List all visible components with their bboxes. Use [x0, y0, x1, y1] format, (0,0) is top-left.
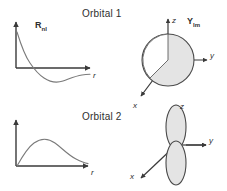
r-axis-label-orbital-2: r	[91, 169, 94, 177]
orbital-1-title: Orbital 1	[82, 9, 122, 19]
radial-curve-orbital-2	[17, 139, 88, 166]
r-axis-label-orbital-1: r	[93, 72, 96, 80]
p-orbital-lower-lobe	[166, 141, 186, 185]
y-axis-label-orbital-1: y	[210, 52, 214, 60]
angular-function-subscript: lm	[193, 22, 200, 28]
angular-diagram-orbital-1	[141, 19, 207, 96]
x-axis-label-orbital-2: x	[130, 173, 134, 181]
radial-function-label: Rnl	[35, 21, 47, 32]
angular-function-label: Ylm	[187, 17, 200, 28]
orbital-2-title: Orbital 2	[82, 112, 122, 122]
z-axis-label-orbital-1: z	[172, 17, 176, 25]
x-axis-label-orbital-1: x	[133, 102, 137, 110]
y-axis-label-orbital-2: y	[209, 137, 213, 145]
radial-plot-orbital-1	[16, 22, 90, 82]
orbital-wavefunction-figure: Orbital 1 Orbital 2 Rnl Ylm r r z y x z …	[0, 0, 227, 191]
radial-plot-orbital-2	[16, 120, 88, 166]
radial-curve-orbital-1	[17, 32, 90, 82]
z-axis-label-orbital-2: z	[180, 103, 184, 111]
angular-diagram-orbital-2	[141, 105, 206, 185]
radial-function-subscript: nl	[42, 26, 47, 32]
